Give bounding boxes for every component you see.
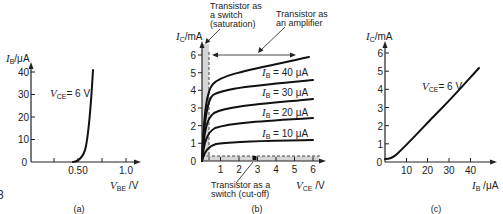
chart-c-caption: (c) [431,204,442,214]
chart-a-caption: (a) [74,204,85,214]
x-tick-label: 40 [465,165,477,176]
y-tick-label: 3 [190,103,196,114]
amplifier-annotation-line2: an amplifier [276,18,323,28]
chart-c-y-ticks: 0 1 2 3 4 5 6 [376,48,389,168]
saturation-pointer [207,29,220,42]
x-tick-label: 6 [310,164,316,175]
chart-c: 0 1 2 3 4 5 6 10 20 30 40 IC/mA VCE= 6 V… [365,30,499,214]
y-tick-label: 20 [18,112,30,123]
y-tick-label: 5 [377,66,383,77]
arrow-right-icon [290,53,296,58]
y-tick-label: 40 [18,67,30,78]
arrow-right-icon [319,159,326,164]
x-tick-label: 4 [273,164,279,175]
chart-b-y-label: IC/mA [175,30,203,43]
y-tick-label: 10 [18,134,30,145]
y-tick-label: 30 [18,89,30,100]
x-tick-label: 2 [236,164,242,175]
curve-label-40ua: IB = 40 μA [261,66,308,79]
curve-label-20ua: IB = 20 μA [261,106,308,119]
chart-b-y-ticks: 0 1 2 3 4 5 6 [190,50,202,167]
chart-c-x-label: IB /μA [471,179,499,192]
y-tick-label: 0 [190,156,196,167]
x-tick-label: 1 [218,164,224,175]
figure-number-fragment: 8 [0,188,4,202]
y-tick-label: 1 [377,139,383,150]
x-tick-label: 3 [255,164,261,175]
x-tick-label: 5 [292,164,298,175]
arrow-left-icon [212,53,218,58]
curve-label-10ua: IB = 10 μA [261,127,308,140]
chart-a-y-label: IB/μA [5,52,30,65]
amplifier-pointer [260,27,285,51]
y-tick-label: 0 [376,157,382,168]
x-tick-label: 10 [401,165,413,176]
chart-a-curve-label: VCE= 6 V [50,87,90,100]
y-tick-label: 6 [377,48,383,59]
chart-c-y-label: IC/mA [365,30,393,43]
y-tick-label: 3 [377,103,383,114]
cutoff-point-marker [253,156,257,160]
arrow-right-icon [134,160,141,165]
chart-a-x-ticks: 0.50 1.0 [54,158,133,176]
chart-a-y-ticks: 0 10 20 30 40 [18,67,35,168]
figure-canvas: 8 0 10 20 30 40 0.50 1.0 IB/μA [0,0,503,214]
y-tick-label: 4 [377,84,383,95]
cutoff-region [202,156,319,161]
y-tick-label: 6 [190,50,196,61]
chart-c-curve-label: VCE= 6 V [422,80,462,93]
x-tick-label: 30 [443,165,455,176]
chart-a-curve-vce-6v [73,70,93,162]
y-tick-label: 0 [21,157,27,168]
chart-a-x-label: VBE /V [110,179,139,192]
y-tick-label: 5 [190,68,196,79]
x-tick-label: 1.0 [119,165,133,176]
chart-b-x-label: VCE /V [296,179,325,192]
y-tick-label: 4 [190,85,196,96]
x-tick-label: 0.50 [68,165,88,176]
chart-a: 0 10 20 30 40 0.50 1.0 IB/μA VCE= 6 V VB… [5,52,141,214]
y-tick-label: 2 [190,121,196,132]
chart-b-caption: (b) [252,204,263,214]
y-tick-label: 1 [190,138,196,149]
arrow-up-icon [383,41,388,48]
curve-label-30ua: IB = 30 μA [261,86,308,99]
x-tick-label: 20 [422,165,434,176]
saturation-annotation-line3: (saturation) [210,19,256,29]
chart-c-curve-vce-6v [385,68,479,159]
y-tick-label: 2 [377,121,383,132]
arrow-right-icon [490,160,497,165]
chart-b: 0 1 2 3 4 5 6 1 2 3 4 5 6 [175,1,328,214]
chart-c-x-ticks: 10 20 30 40 [401,158,477,176]
cutoff-annotation-line2: switch (cut-off) [211,189,269,199]
